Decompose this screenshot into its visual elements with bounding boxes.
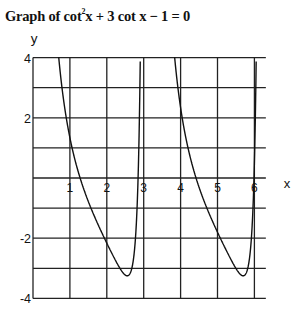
x-tick-label: 6	[251, 181, 258, 195]
grid-lines	[33, 58, 266, 299]
x-tick-label: 3	[140, 181, 147, 195]
curve-branch	[59, 57, 141, 276]
curve-branch	[175, 57, 257, 276]
chart-plot: 12345642-2-4xy	[0, 0, 308, 316]
y-tick-label: -4	[20, 292, 31, 306]
x-axis-label: x	[284, 176, 291, 191]
x-tick-label: 2	[103, 181, 110, 195]
function-curve	[59, 57, 256, 276]
y-axis-label: y	[31, 31, 38, 46]
x-tick-label: 1	[67, 181, 74, 195]
y-tick-label: 4	[24, 52, 31, 66]
y-tick-label: -2	[20, 232, 31, 246]
y-tick-label: 2	[24, 112, 31, 126]
x-tick-label: 4	[177, 181, 184, 195]
x-tick-label: 5	[214, 181, 221, 195]
